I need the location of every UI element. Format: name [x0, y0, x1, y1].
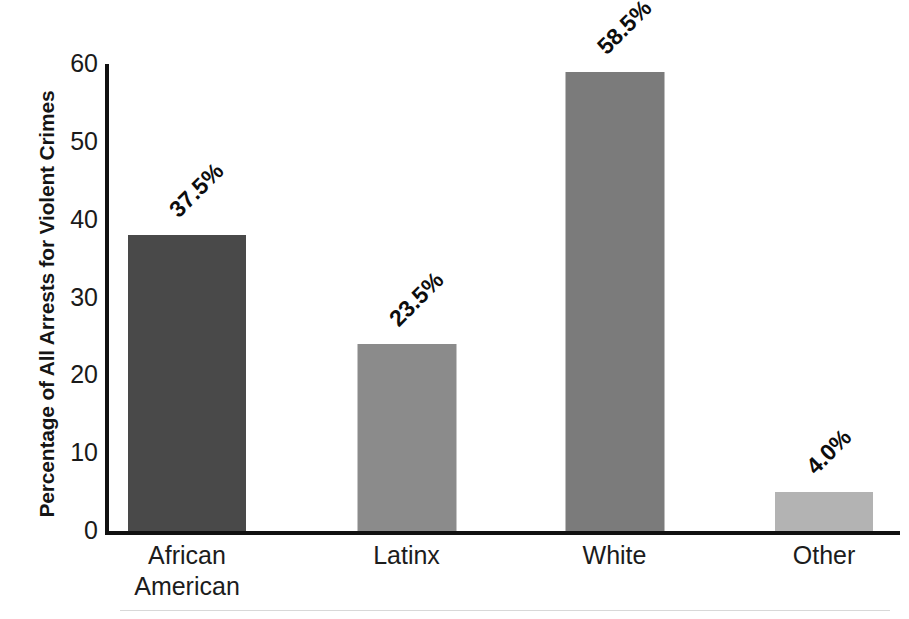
x-axis-category-label: White [540, 540, 689, 571]
bar-value-label: 4.0% [801, 424, 857, 480]
x-axis-line [105, 531, 900, 535]
bar[interactable] [775, 492, 873, 531]
y-axis-tick-label: 40 [52, 207, 98, 232]
x-axis-category-label-line: Latinx [332, 540, 481, 571]
x-axis-category-label: Latinx [332, 540, 481, 571]
bar-slot: 23.5% [357, 64, 456, 531]
bar-value-label: 58.5% [591, 0, 656, 60]
x-axis-category-label-line: African [103, 540, 271, 571]
x-axis-category-labels: AfricanAmericanLatinxWhiteOther [109, 540, 900, 618]
bar-value-label: 37.5% [164, 158, 229, 223]
y-axis-tick-label: 20 [52, 362, 98, 387]
bar[interactable] [128, 235, 246, 531]
bar-slot: 4.0% [775, 64, 873, 531]
x-axis-category-label: AfricanAmerican [103, 540, 271, 601]
y-axis-tick-labels: 0102030405060 [46, 0, 98, 619]
y-axis-tick-label: 60 [52, 51, 98, 76]
x-axis-category-label-line: Other [750, 540, 898, 571]
bar[interactable] [565, 72, 664, 531]
x-axis-category-label: Other [750, 540, 898, 571]
bar-slot: 58.5% [565, 64, 664, 531]
scan-artifact-rule [120, 610, 890, 611]
plot-area: 37.5%23.5%58.5%4.0% [109, 64, 900, 531]
x-axis-category-label-line: White [540, 540, 689, 571]
y-axis-tick-label: 0 [52, 518, 98, 543]
bar-slot: 37.5% [128, 64, 246, 531]
bar-chart: Percentage of All Arrests for Violent Cr… [0, 0, 909, 619]
x-axis-category-label-line: American [103, 571, 271, 602]
bar-value-label: 23.5% [383, 267, 448, 332]
y-axis-tick-label: 50 [52, 129, 98, 154]
y-axis-tick-label: 30 [52, 285, 98, 310]
y-axis-tick-label: 10 [52, 440, 98, 465]
bar[interactable] [357, 344, 456, 531]
